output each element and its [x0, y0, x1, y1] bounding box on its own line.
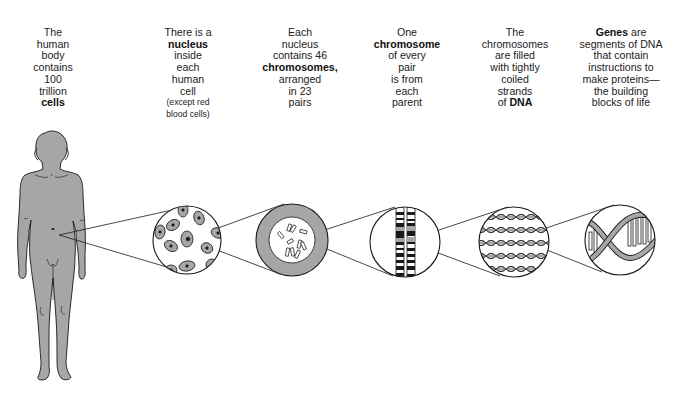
cells-magnified-circle	[153, 203, 226, 275]
dna-strands-circle	[476, 207, 556, 277]
nucleus-magnified-circle	[256, 204, 328, 276]
gene-double-helix-circle	[582, 205, 660, 275]
diagram-artwork	[0, 0, 675, 394]
human-body-figure	[18, 131, 86, 380]
